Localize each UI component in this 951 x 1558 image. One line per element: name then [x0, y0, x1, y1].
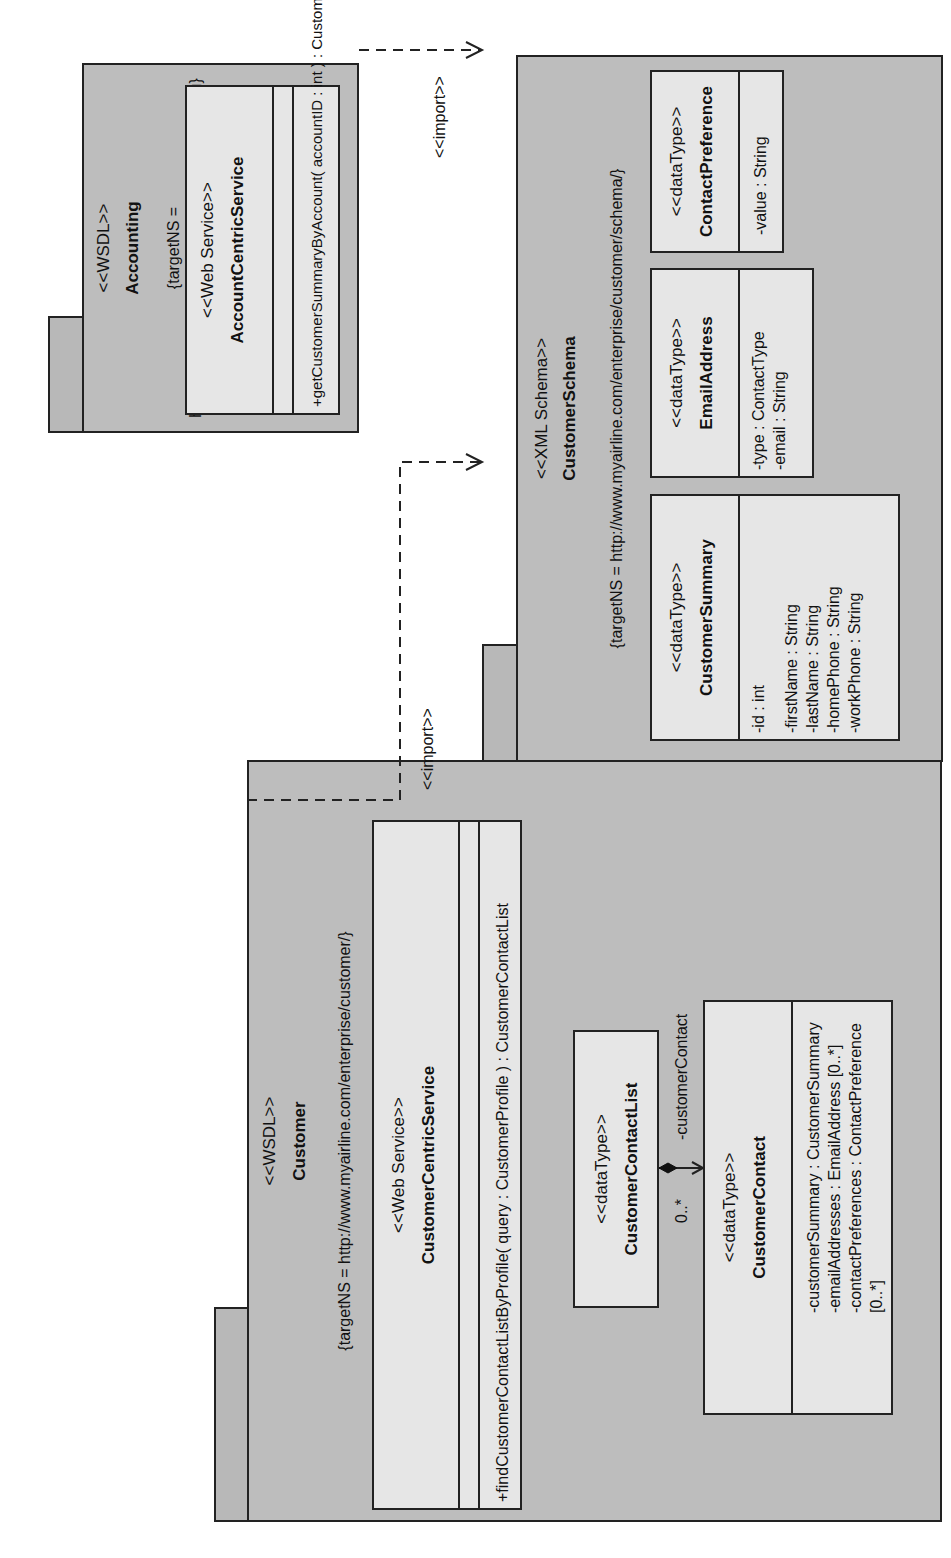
uml-package-diagram: <<WSDL>> Accounting {targetNS = http://w…: [0, 0, 951, 1558]
composition-multiplicity-label: 0..*: [672, 1199, 692, 1223]
import-customer-label: <<import>>: [418, 708, 438, 790]
composition-diamond-icon: [659, 1163, 677, 1173]
import-customer-line: [247, 462, 480, 800]
import-accounting-label: <<import>>: [430, 76, 450, 158]
composition-role-label: -customerContact: [672, 1014, 692, 1140]
relationship-lines: [0, 0, 951, 1558]
